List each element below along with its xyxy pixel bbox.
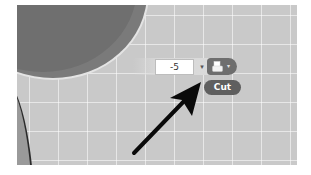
arrow-annotation-icon xyxy=(0,0,311,175)
